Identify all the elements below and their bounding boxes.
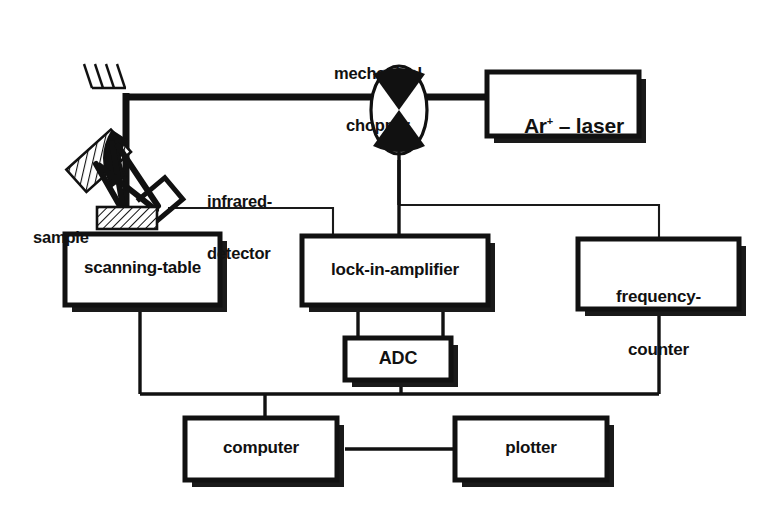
ar-laser-tail: – laser	[553, 114, 624, 137]
diagram-canvas: mechanical chopper infrared- detector sa…	[0, 0, 779, 514]
steering-mirror	[84, 64, 126, 88]
label-lock-in-amplifier: lock-in-amplifier	[302, 261, 488, 279]
label-computer: computer	[185, 439, 337, 457]
sample-holder	[97, 207, 157, 229]
label-plotter: plotter	[455, 439, 607, 457]
infrared-detector-line1: infrared-	[207, 193, 272, 210]
label-adc: ADC	[345, 349, 451, 368]
label-frequency-counter: frequency- counter	[578, 252, 739, 395]
frequency-counter-line2: counter	[578, 341, 739, 359]
frequency-counter-line1: frequency-	[578, 288, 739, 306]
mechanical-chopper-line2: chopper	[334, 117, 422, 134]
label-scanning-table: scanning-table	[65, 259, 220, 277]
label-ar-laser: Ar+ – laser	[487, 93, 639, 159]
label-mechanical-chopper: mechanical chopper	[334, 30, 422, 169]
mechanical-chopper-line1: mechanical	[334, 65, 422, 82]
ar-laser-element: Ar	[524, 114, 547, 137]
sample-text: sample	[33, 229, 89, 246]
